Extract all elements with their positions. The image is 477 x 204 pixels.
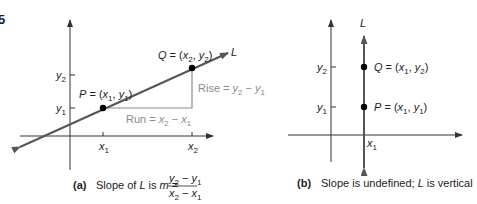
run-label: Run = x2 − x1 [126,113,192,128]
point-p-label-b: P = (x1, y1) [374,101,427,116]
point-p-b [361,104,367,110]
slope-denominator: x2 − x1 [168,187,202,202]
x1-tick-label: x1 [98,140,110,155]
y2-tick-label-b: y2 [316,61,328,76]
caption-b-tag: (b) [297,177,311,189]
panel-a: L Q = (x2, y2) P = (x1, y1) Rise = y2 − … [20,20,266,202]
caption-b: (b) Slope is undefined; L is vertical [297,177,473,189]
figure-number: 5 [0,12,5,27]
x2-tick-label: x2 [187,140,199,155]
caption-a: (a) Slope of L is m = y2 − y1 x2 − x1 [73,172,202,202]
y1-tick-label-b: y1 [316,101,328,116]
point-q-label: Q = (x2, y2) [158,49,212,64]
figure-canvas: 5 L Q = (x2, y2) P = (x1, y1) Rise = y2 … [0,0,477,204]
line-l-label-b: L [360,17,366,29]
rise-label: Rise = y2 − y1 [198,82,266,97]
y1-tick-label: y1 [55,102,67,117]
panel-b: L Q = (x1, y2) P = (x1, y1) y2 y1 x1 (b)… [288,17,473,189]
caption-b-text: Slope is undefined; L is vertical [321,177,473,189]
point-q-b [361,64,367,70]
point-q-label-b: Q = (x1, y2) [374,61,428,76]
caption-a-tag: (a) [73,179,87,191]
point-q [189,65,195,71]
point-p-label: P = (x1, y1) [79,88,132,103]
line-l-label: L [231,46,237,58]
caption-a-text: Slope of L is m = [96,179,178,191]
x1-tick-label-b: x1 [366,137,378,152]
y2-tick-label: y2 [55,69,67,84]
point-p [100,105,106,111]
